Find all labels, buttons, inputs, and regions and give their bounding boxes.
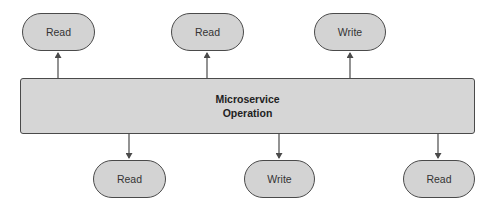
node-label: Read	[426, 173, 451, 185]
microservice-operation-diagram: Read Read Write Microservice Operation R…	[0, 0, 489, 209]
top-node-write: Write	[314, 13, 386, 51]
top-node-read-2: Read	[171, 13, 244, 51]
main-box-label-line2: Operation	[223, 106, 273, 120]
node-label: Read	[195, 26, 220, 38]
node-label: Write	[267, 173, 291, 185]
main-box-label-line1: Microservice	[215, 92, 279, 106]
node-label: Write	[338, 26, 362, 38]
node-label: Read	[117, 173, 142, 185]
microservice-operation-box: Microservice Operation	[20, 78, 475, 134]
bottom-node-read-2: Read	[403, 160, 475, 198]
node-label: Read	[46, 26, 71, 38]
top-node-read-1: Read	[22, 13, 95, 51]
bottom-node-read-1: Read	[93, 160, 166, 198]
bottom-node-write: Write	[244, 160, 315, 198]
